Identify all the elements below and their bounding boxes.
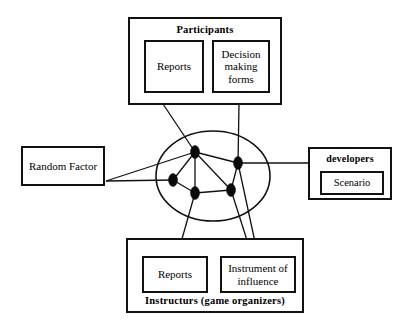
network-node-n-right[interactable]	[234, 157, 243, 170]
network-node-n-left[interactable]	[169, 174, 178, 187]
network-node-n-bottom-left[interactable]	[191, 187, 200, 200]
network-node-n-top[interactable]	[191, 146, 200, 159]
network-node-n-bottom-right[interactable]	[227, 184, 236, 197]
diagram-canvas: Participants Reports Decision making for…	[0, 0, 405, 331]
network-nodes-layer	[0, 0, 405, 331]
network-nodes	[169, 146, 243, 200]
